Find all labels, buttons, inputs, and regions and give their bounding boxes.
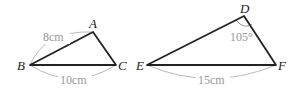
angle-d-label: 105° <box>230 30 253 44</box>
vertex-e-label: E <box>135 58 144 73</box>
triangle-abc: 8cm 10cm A B C <box>17 16 127 87</box>
similar-triangles-diagram: 8cm 10cm A B C 105° 15cm D E F <box>0 0 297 96</box>
vertex-f-label: F <box>277 58 287 73</box>
side-ef-label: 15cm <box>198 73 225 87</box>
vertex-c-label: C <box>118 58 127 73</box>
triangle-def-shape <box>147 16 276 65</box>
vertex-a-label: A <box>88 16 97 31</box>
side-bc-label: 10cm <box>60 73 87 87</box>
triangle-def: 105° 15cm D E F <box>135 1 287 87</box>
vertex-b-label: B <box>17 58 25 73</box>
side-ab-label: 8cm <box>43 30 64 44</box>
vertex-d-label: D <box>239 1 250 16</box>
